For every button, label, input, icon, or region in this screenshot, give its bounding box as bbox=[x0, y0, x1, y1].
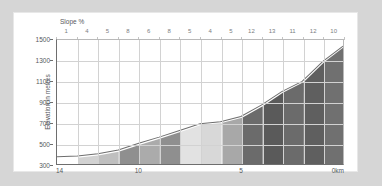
elevation-plot bbox=[56, 39, 344, 165]
y-axis-tick bbox=[50, 123, 53, 124]
slope-value-label: 10 bbox=[330, 28, 337, 34]
slope-value-label: 4 bbox=[209, 28, 212, 34]
slope-value-label: 5 bbox=[188, 28, 191, 34]
gridline-vertical bbox=[242, 40, 243, 164]
slope-value-label: 12 bbox=[310, 28, 317, 34]
y-axis-tick-label: 500 bbox=[14, 141, 50, 148]
slope-value-label: 12 bbox=[248, 28, 255, 34]
slope-value-label: 1 bbox=[65, 28, 68, 34]
y-axis-tick bbox=[50, 102, 53, 103]
gridline-horizontal bbox=[57, 82, 343, 83]
y-axis-tick-label: 1100 bbox=[14, 78, 50, 85]
y-axis-tick-label: 700 bbox=[14, 120, 50, 127]
slope-value-label: 5 bbox=[229, 28, 232, 34]
gridline-vertical bbox=[201, 40, 202, 164]
chart-card: Slope % 1458685451213111210 Elevation in… bbox=[13, 12, 358, 172]
y-axis-tick bbox=[50, 60, 53, 61]
gridline-horizontal bbox=[57, 124, 343, 125]
y-axis-tick-label: 300 bbox=[14, 162, 50, 169]
y-axis-tick bbox=[50, 81, 53, 82]
gridline-vertical bbox=[304, 40, 305, 164]
y-axis-tick-label: 1300 bbox=[14, 57, 50, 64]
gridline-vertical bbox=[98, 40, 99, 164]
x-axis-tick-label: 5 bbox=[239, 167, 243, 174]
elevation-curve bbox=[57, 46, 343, 157]
y-axis-tick-label: 1500 bbox=[14, 36, 50, 43]
slope-value-label: 4 bbox=[85, 28, 88, 34]
y-axis-tick bbox=[50, 144, 53, 145]
gridline-vertical bbox=[139, 40, 140, 164]
gridline-vertical bbox=[119, 40, 120, 164]
gridline-horizontal bbox=[57, 103, 343, 104]
slope-value-label: 11 bbox=[289, 28, 295, 34]
y-axis: 150013001100900700500300 bbox=[14, 39, 54, 165]
gridline-vertical bbox=[160, 40, 161, 164]
gridline-vertical bbox=[263, 40, 264, 164]
slope-value-label: 13 bbox=[269, 28, 276, 34]
gridline-vertical bbox=[180, 40, 181, 164]
slope-value-label: 8 bbox=[126, 28, 129, 34]
y-axis-tick bbox=[50, 39, 53, 40]
gridline-vertical bbox=[78, 40, 79, 164]
x-axis-tick-label: 10 bbox=[135, 167, 142, 174]
x-axis: 141050km bbox=[56, 166, 344, 178]
gridline-vertical bbox=[283, 40, 284, 164]
slope-axis-title: Slope % bbox=[60, 18, 84, 25]
gridline-vertical bbox=[324, 40, 325, 164]
gridline-horizontal bbox=[57, 145, 343, 146]
y-axis-tick bbox=[50, 165, 53, 166]
gridline-horizontal bbox=[57, 61, 343, 62]
slope-value-label: 8 bbox=[167, 28, 170, 34]
x-axis-tick-label: 14 bbox=[56, 167, 63, 174]
slope-value-label: 5 bbox=[106, 28, 109, 34]
slope-axis: 1458685451213111210 bbox=[56, 28, 344, 38]
slope-value-label: 6 bbox=[147, 28, 150, 34]
x-axis-tick-label: 0km bbox=[332, 167, 344, 174]
gridline-vertical bbox=[222, 40, 223, 164]
slope-axis-tick bbox=[344, 37, 345, 40]
y-axis-tick-label: 900 bbox=[14, 99, 50, 106]
